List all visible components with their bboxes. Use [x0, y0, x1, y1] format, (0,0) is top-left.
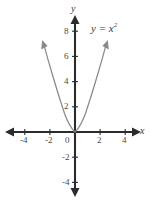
equation-operator: = [99, 22, 106, 34]
equation-annotation: y = x2 [91, 23, 117, 34]
y-tick-label-6: 6 [64, 52, 69, 61]
coordinate-plane [0, 0, 150, 203]
equation-lhs: y [91, 22, 96, 34]
x-axis-label: x [140, 126, 144, 136]
x-tick-label-2: 2 [97, 136, 102, 145]
x-tick-label-minus4: -4 [20, 136, 28, 145]
x-tick-label-minus2: -2 [45, 136, 53, 145]
y-axis-label: y [71, 4, 75, 14]
y-axis [71, 15, 80, 197]
y-tick-label-4: 4 [64, 77, 69, 86]
equation-exponent: 2 [114, 21, 118, 29]
origin-label: 0 [65, 136, 70, 145]
y-tick-label-2: 2 [64, 102, 69, 111]
x-tick-label-4: 4 [122, 136, 127, 145]
y-tick-label-8: 8 [64, 27, 69, 36]
y-tick-label-minus4: -4 [62, 178, 70, 187]
y-tick-label-minus2: -2 [62, 153, 70, 162]
graph-figure: -4 -2 2 4 0 8 6 4 2 -2 -4 y x y = x2 [0, 0, 150, 203]
